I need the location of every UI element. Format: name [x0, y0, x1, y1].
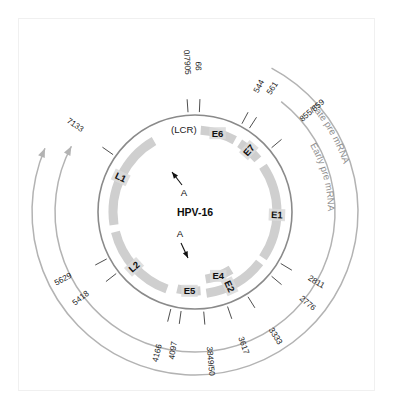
figure-canvas: Early pre mRNALate pre mRNA 0/7905995445… — [0, 0, 393, 411]
tick-label: 4097 — [167, 340, 179, 360]
tick-label: 7133 — [65, 116, 85, 134]
tick-line — [204, 312, 205, 325]
tick-line — [228, 307, 232, 319]
tick-label: 99 — [194, 61, 203, 71]
early-polyA-label: A — [181, 187, 188, 198]
tick-label: 3333 — [267, 326, 285, 347]
tick-line — [187, 99, 188, 112]
tick-line — [272, 276, 282, 284]
gene-arc-l2 — [115, 232, 167, 289]
tick-line — [106, 274, 116, 282]
late-polyA-arrowhead — [183, 251, 188, 258]
tick-line — [248, 297, 255, 308]
mrna-arc-early — [55, 102, 335, 352]
genome-map-svg: Early pre mRNALate pre mRNA 0/7905995445… — [0, 0, 393, 411]
tick-line — [281, 264, 292, 271]
gene-label-e6: E6 — [212, 128, 224, 139]
mrna-arrowhead-early — [64, 146, 71, 156]
tick-label: 2811 — [306, 274, 326, 291]
lcr-label: (LCR) — [171, 124, 197, 135]
gene-label-group-e4: E4 — [210, 270, 226, 282]
tick-line — [272, 139, 282, 147]
tick-label: 5418 — [71, 289, 91, 308]
gene-label-group-e6: E6 — [209, 127, 225, 139]
mrna-arrowhead-late — [38, 148, 45, 158]
genome-center-label: HPV-16 — [177, 206, 213, 218]
tick-label: 561 — [265, 80, 280, 97]
late-polyA-label: A — [177, 228, 184, 239]
tick-line — [249, 117, 256, 128]
gene-label-e1: E1 — [271, 209, 284, 220]
static-text-group: HPV-16 (LCR) — [171, 124, 213, 218]
gene-label-e4: E4 — [212, 270, 224, 281]
early-polyA-arrowhead — [172, 172, 178, 179]
tick-label: 3849/50 — [205, 346, 217, 377]
tick-line — [168, 309, 171, 322]
gene-label-group-e5: E5 — [181, 285, 197, 297]
tick-line — [95, 259, 106, 265]
tick-label: 0/7905 — [182, 49, 193, 75]
gene-label-group-e1: E1 — [269, 209, 286, 222]
tick-line — [199, 99, 200, 112]
mrna-label-early: Early pre mRNA — [308, 141, 337, 212]
tick-line — [179, 311, 181, 324]
tick-line — [102, 147, 113, 154]
tick-line — [242, 112, 248, 123]
tick-label: 5629 — [53, 271, 74, 288]
gene-label-e5: E5 — [184, 285, 196, 296]
